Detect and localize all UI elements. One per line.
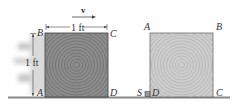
stop-label: S (137, 87, 142, 98)
width-label: 1 ft (71, 22, 85, 33)
left-block (32, 20, 122, 109)
corner-label-D-right: D (151, 87, 160, 98)
corner-label-C-left: C (110, 28, 117, 39)
arrowhead-icon (92, 15, 96, 18)
corner-label-B-right: B (216, 21, 222, 32)
velocity-label: v (81, 5, 86, 15)
corner-label-B-left: B (37, 27, 43, 38)
width-dimension: 1 ft (46, 22, 107, 33)
stop-block (145, 92, 150, 97)
corner-label-C-right: C (216, 87, 223, 98)
block-tipping-diagram: v 1 ft 1 ft B C A D (0, 0, 233, 109)
corner-label-A-left: A (36, 87, 44, 98)
corner-label-A-right: A (143, 21, 151, 32)
height-label: 1 ft (25, 57, 39, 68)
corner-label-D-left: D (109, 87, 118, 98)
velocity-vector: v (72, 5, 96, 19)
